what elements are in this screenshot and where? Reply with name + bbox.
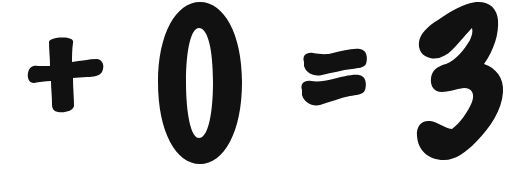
digit-zero: 0 bbox=[158, 2, 242, 164]
equals-sign: = bbox=[300, 48, 372, 110]
equals-icon bbox=[300, 48, 372, 110]
three-glyph-icon bbox=[414, 0, 504, 162]
zero-glyph-icon bbox=[158, 2, 242, 164]
plus-sign: + bbox=[27, 36, 105, 114]
plus-icon bbox=[27, 36, 105, 114]
digit-three: 3 bbox=[414, 0, 504, 162]
equation-fragment: + 0 = 3 bbox=[0, 0, 518, 174]
